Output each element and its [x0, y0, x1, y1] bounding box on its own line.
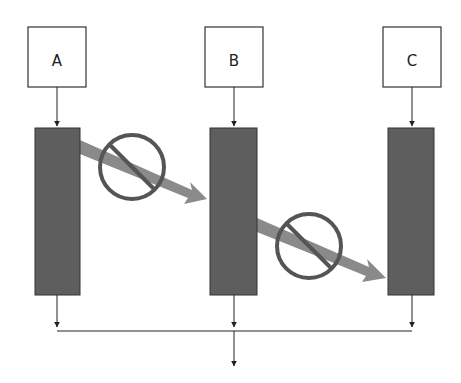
bar-a [35, 128, 80, 295]
node-a-label: A [52, 52, 63, 70]
node-c: C [383, 27, 441, 87]
node-b: B [205, 27, 263, 87]
node-a: A [28, 27, 86, 87]
bar-b [210, 128, 257, 295]
prohibited-icon [100, 135, 164, 199]
node-c-label: C [407, 52, 417, 70]
prohibited-icon [277, 214, 341, 278]
node-b-label: B [229, 52, 239, 70]
bar-c [388, 128, 434, 295]
diagram-canvas: A B C [0, 0, 461, 383]
